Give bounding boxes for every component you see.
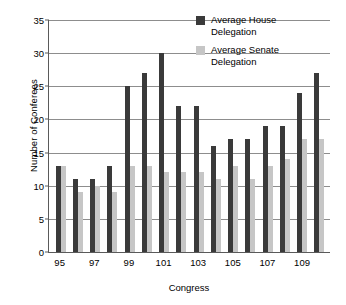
bar-group <box>69 20 86 252</box>
x-axis-tick-label-102 <box>172 256 189 272</box>
bar-senate-95[interactable] <box>61 166 66 252</box>
legend-label: Average House Delegation <box>211 14 323 37</box>
legend-label: Average Senate Delegation <box>211 44 323 67</box>
bar-senate-108[interactable] <box>285 159 290 252</box>
x-axis-tick-label-95: 95 <box>51 256 68 272</box>
bar-group <box>87 20 104 252</box>
x-axis-tick-label-98 <box>103 256 120 272</box>
gridline <box>49 252 330 253</box>
x-axis-tick-label-107: 107 <box>259 256 276 272</box>
y-axis-tick-label: 0 <box>39 247 44 258</box>
chart-legend: Average House DelegationAverage Senate D… <box>196 14 336 74</box>
bar-senate-110[interactable] <box>319 139 324 252</box>
legend-item-senate[interactable]: Average Senate Delegation <box>196 44 336 67</box>
x-axis-tick-label-99: 99 <box>120 256 137 272</box>
bar-senate-103[interactable] <box>199 172 204 252</box>
x-axis-tick-label-100 <box>138 256 155 272</box>
bar-senate-102[interactable] <box>181 172 186 252</box>
x-axis-tick-label-104 <box>207 256 224 272</box>
y-axis-tick-label: 30 <box>33 48 44 59</box>
bar-senate-105[interactable] <box>233 166 238 252</box>
y-axis-tick-label: 35 <box>33 15 44 26</box>
y-axis-tick-label: 25 <box>33 81 44 92</box>
y-axis-tick-label: 20 <box>33 114 44 125</box>
y-axis-tick-label: 15 <box>33 147 44 158</box>
x-axis-tick-labels: 959799101103105107109 <box>48 256 330 272</box>
bar-senate-100[interactable] <box>147 166 152 252</box>
bar-senate-101[interactable] <box>164 172 169 252</box>
bar-chart: Number of Conferees 05101520253035 95979… <box>0 0 346 305</box>
bar-senate-106[interactable] <box>250 179 255 252</box>
x-axis-title: Congress <box>48 282 330 293</box>
bar-group <box>104 20 121 252</box>
bar-senate-99[interactable] <box>130 166 135 252</box>
bar-group <box>121 20 138 252</box>
bar-senate-109[interactable] <box>302 139 307 252</box>
bar-senate-98[interactable] <box>112 192 117 252</box>
x-axis-tick-label-97: 97 <box>86 256 103 272</box>
x-axis-tick-label-108 <box>276 256 293 272</box>
x-axis-tick-label-103: 103 <box>190 256 207 272</box>
bar-group <box>173 20 190 252</box>
bar-senate-107[interactable] <box>268 166 273 252</box>
x-axis-tick-label-110 <box>311 256 328 272</box>
bar-senate-96[interactable] <box>78 192 83 252</box>
bar-group <box>138 20 155 252</box>
bar-group <box>156 20 173 252</box>
bar-senate-97[interactable] <box>95 186 100 252</box>
legend-swatch-icon-senate <box>196 46 205 55</box>
x-axis-tick-label-105: 105 <box>224 256 241 272</box>
y-axis-tick-label: 5 <box>39 213 44 224</box>
bar-senate-104[interactable] <box>216 179 221 252</box>
x-axis-tick-label-96 <box>68 256 85 272</box>
bar-group <box>52 20 69 252</box>
legend-swatch-icon-house <box>196 16 205 25</box>
x-axis-tick-label-101: 101 <box>155 256 172 272</box>
legend-item-house[interactable]: Average House Delegation <box>196 14 336 37</box>
x-axis-tick-label-106 <box>241 256 258 272</box>
x-axis-tick-label-109: 109 <box>293 256 310 272</box>
y-axis-tick-label: 10 <box>33 180 44 191</box>
